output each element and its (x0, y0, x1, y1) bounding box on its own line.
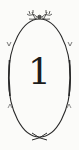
badge-numeral: 1 (0, 52, 79, 92)
